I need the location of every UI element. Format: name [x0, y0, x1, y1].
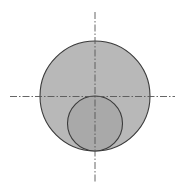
- tangent-circles-diagram: [0, 0, 182, 191]
